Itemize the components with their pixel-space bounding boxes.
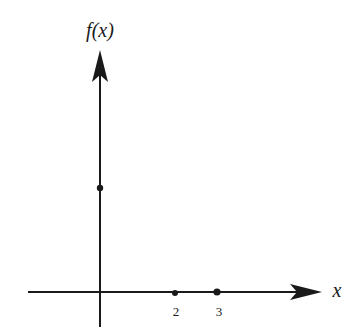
point-x-2: [172, 290, 178, 296]
x-axis-label: x: [332, 279, 342, 301]
point-x-3: [213, 288, 220, 295]
y-axis-label: f(x): [86, 19, 114, 42]
tick-label-2: 2: [173, 304, 180, 319]
function-graph: f(x) x 2 3: [0, 0, 361, 335]
tick-label-3: 3: [216, 304, 223, 319]
point-on-y-axis: [97, 185, 103, 191]
